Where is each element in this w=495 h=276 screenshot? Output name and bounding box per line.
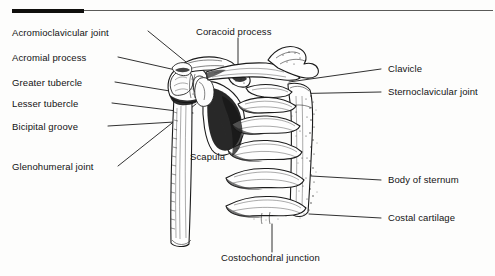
label-glenohumeral-joint: Glenohumeral joint [12,161,94,172]
label-scapula: Scapula [190,151,225,162]
label-acromial-process: Acromial process [12,52,86,63]
label-acromioclavicular-joint: Acromioclavicular joint [12,27,109,38]
label-greater-tubercle: Greater tubercle [12,77,82,88]
figure-canvas: Acromioclavicular joint Acromial process… [0,0,495,276]
rib-cage [226,85,306,224]
label-lesser-tubercle: Lesser tubercle [12,98,78,109]
label-costochondral-junction: Costochondral junction [221,252,320,263]
label-clavicle: Clavicle [388,63,422,74]
label-sternoclavicular-joint: Sternoclavicular joint [388,86,478,97]
label-bicipital-groove: Bicipital groove [12,121,78,132]
label-body-of-sternum: Body of sternum [388,174,459,185]
anatomy-illustration [0,0,495,276]
label-coracoid-process: Coracoid process [196,26,272,37]
label-costal-cartilage: Costal cartilage [388,212,455,223]
